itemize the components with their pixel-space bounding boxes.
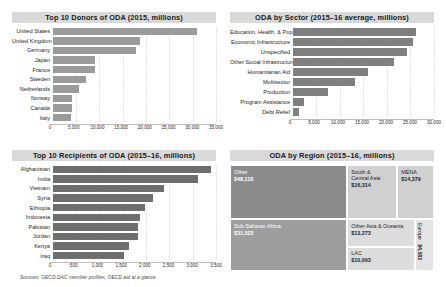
gridline (216, 213, 217, 222)
treemap-tile-name: Europe (417, 223, 423, 240)
gridlines (53, 94, 217, 103)
gridline (193, 85, 194, 94)
gridline (169, 46, 170, 55)
treemap-tile-content: Other Asia & Oceania$13,273 (348, 220, 413, 239)
gridline (169, 37, 170, 46)
treemap-tile[interactable]: LAC$10,093 (347, 247, 414, 271)
gridline (434, 37, 435, 46)
gridline (169, 203, 170, 212)
treemap-tile-value: $14,379 (401, 176, 430, 183)
gridline (363, 98, 364, 107)
gridline (146, 223, 147, 232)
gridline (146, 251, 147, 260)
gridline (193, 203, 194, 212)
bar-row: Unspecified (230, 47, 434, 56)
treemap-tile-name: MENA (401, 169, 430, 176)
axis-tick-label: 25,000 (403, 120, 417, 125)
gridline (216, 37, 217, 46)
gridline (169, 232, 170, 241)
panel-title-top-recipients: Top 10 Recipients of ODA (2015–16, milli… (12, 150, 216, 161)
bar-row: Multisector (230, 77, 434, 86)
bar-category-label: Education, Health, & Pop (230, 29, 293, 35)
bar-track (53, 232, 217, 241)
treemap-tile[interactable]: South & Central Asia$16,314 (347, 165, 397, 219)
panel-top-donors: Top 10 Donors of ODA (2015, millions) Un… (6, 6, 222, 142)
gridline (316, 98, 317, 107)
gridline (146, 65, 147, 74)
axis-tick-label: 5,000 (68, 125, 80, 130)
bar-row: United Kingdom (12, 37, 216, 46)
bar-row: Vietnam (12, 184, 216, 193)
treemap-tile-value: $4,582 (417, 244, 423, 260)
bar-track (293, 88, 435, 97)
axis-tick-label: 2,500 (163, 263, 175, 268)
treemap-tile[interactable]: Other Asia & Oceania$13,273 (347, 219, 414, 247)
bar-category-label: Syria (12, 195, 53, 201)
gridlines (293, 108, 435, 117)
gridline (216, 65, 217, 74)
bar-fill (53, 233, 138, 240)
panel-title-oda-by-sector: ODA by Sector (2015–16 average, millions… (230, 12, 434, 23)
bar-track (53, 27, 217, 36)
gridline (193, 104, 194, 113)
gridline (216, 184, 217, 193)
bar-fill (53, 204, 145, 211)
gridline (146, 104, 147, 113)
chart-top-recipients: AfghanistanIndiaVietnamSyriaEthiopiaIndo… (12, 165, 216, 272)
bar-category-label: Norway (12, 95, 53, 101)
panel-title-oda-by-region: ODA by Region (2015–16, millions) (230, 150, 434, 161)
bar-track (53, 165, 217, 174)
bar-fill (53, 95, 73, 102)
bars-oda-by-sector: Education, Health, & PopEconomic Infrast… (230, 27, 434, 118)
gridline (146, 85, 147, 94)
gridline (193, 194, 194, 203)
treemap-tile[interactable]: Europe $4,582 (415, 219, 434, 271)
axis-tick-label: 15,000 (114, 125, 128, 130)
gridline (216, 56, 217, 65)
gridline (169, 94, 170, 103)
treemap-tile[interactable]: Other$48,118 (230, 165, 347, 219)
gridline (340, 88, 341, 97)
bar-category-label: Kenya (12, 243, 53, 249)
gridlines (53, 104, 217, 113)
x-axis-top-donors: 05,00010,00015,00020,00025,00030,00035,0… (50, 124, 216, 134)
bar-row: Germany (12, 46, 216, 55)
gridline (193, 75, 194, 84)
gridline (410, 47, 411, 56)
panel-top-recipients: Top 10 Recipients of ODA (2015–16, milli… (6, 144, 222, 272)
bar-track (293, 47, 435, 56)
axis-tick-label: 30,000 (427, 120, 441, 125)
gridline (123, 75, 124, 84)
treemap-tile-content: Other$48,118 (231, 166, 346, 185)
treemap-tile-value: $16,314 (351, 182, 393, 189)
gridline (99, 94, 100, 103)
gridline (169, 242, 170, 251)
gridline (410, 57, 411, 66)
treemap-tile[interactable]: MENA$14,379 (397, 165, 434, 219)
gridline (76, 113, 77, 122)
bar-track (53, 251, 217, 260)
gridline (169, 85, 170, 94)
treemap-oda-by-region: Other$48,118Sub-Saharan Africa$31,522Sou… (230, 165, 434, 271)
axis-tick-label: 2,000 (139, 263, 151, 268)
bar-fill (53, 85, 80, 92)
bar-track (293, 27, 435, 36)
bar-row: Afghanistan (12, 165, 216, 174)
infographic-sheet: Top 10 Donors of ODA (2015, millions) Un… (0, 0, 446, 287)
bar-fill (293, 68, 368, 76)
gridline (169, 113, 170, 122)
gridline (387, 98, 388, 107)
gridline (76, 104, 77, 113)
gridline (146, 56, 147, 65)
bar-fill (53, 166, 212, 173)
bar-category-label: Vietnam (12, 185, 53, 191)
treemap-tile[interactable]: Sub-Saharan Africa$31,522 (230, 219, 347, 271)
gridline (146, 75, 147, 84)
bar-category-label: Germany (12, 47, 53, 53)
gridline (216, 232, 217, 241)
bar-fill (293, 78, 356, 86)
bar-track (53, 213, 217, 222)
bar-fill (53, 47, 137, 54)
gridline (146, 113, 147, 122)
gridline (434, 77, 435, 86)
